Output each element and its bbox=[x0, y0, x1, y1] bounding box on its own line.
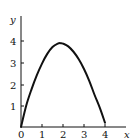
y-tick-label: 3 bbox=[10, 58, 16, 69]
x-tick-label: 4 bbox=[102, 129, 108, 138]
data-curve bbox=[21, 43, 105, 127]
y-tick-label: 4 bbox=[10, 36, 16, 47]
y-tick-label: 1 bbox=[10, 101, 16, 112]
chart: 0 1 2 3 4 x 1 2 3 4 y bbox=[0, 0, 138, 138]
x-tick-label: 3 bbox=[81, 129, 87, 138]
x-tick-label: 0 bbox=[18, 129, 24, 138]
x-tick-label: 2 bbox=[60, 129, 66, 138]
y-tick-label: 2 bbox=[10, 80, 16, 91]
y-axis-label: y bbox=[9, 14, 16, 25]
x-tick-label: 1 bbox=[39, 129, 45, 138]
x-axis-label: x bbox=[124, 129, 130, 138]
